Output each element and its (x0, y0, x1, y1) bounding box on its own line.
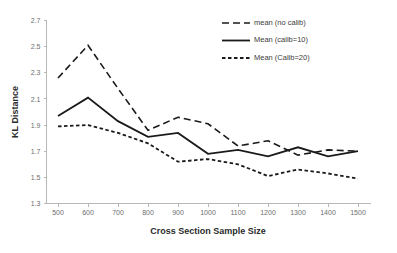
y-tick-label: 2.3 (31, 69, 41, 76)
series-line-1 (58, 45, 358, 155)
x-tick-label: 1100 (230, 209, 245, 216)
x-tick-label: 1000 (200, 209, 216, 216)
y-axis-title: KL Distance (10, 86, 20, 138)
legend-label-3: Mean (Calib=20) (254, 53, 310, 62)
y-tick-label: 2.5 (31, 43, 41, 50)
legend-label-1: mean (no calib) (254, 18, 306, 27)
x-axis-title: Cross Section Sample Size (150, 226, 266, 236)
x-tick-label: 1300 (290, 209, 306, 216)
series-line-2 (58, 98, 358, 157)
legend-label-2: Mean (calib=10) (254, 35, 308, 44)
x-tick-label: 1200 (260, 209, 276, 216)
x-tick-label: 900 (172, 209, 184, 216)
x-tick-label: 600 (82, 209, 94, 216)
chart-canvas: 1.31.51.71.92.12.32.52.7 500600700800900… (0, 0, 397, 253)
y-tick-label: 1.5 (31, 174, 41, 181)
x-tick-label: 1500 (350, 209, 366, 216)
y-axis-ticks: 1.31.51.71.92.12.32.52.7 (31, 17, 47, 207)
x-tick-label: 800 (142, 209, 154, 216)
x-tick-label: 1400 (320, 209, 336, 216)
y-tick-label: 1.3 (31, 200, 41, 207)
y-tick-label: 1.9 (31, 122, 41, 129)
plot-axes (47, 21, 372, 204)
chart-legend: mean (no calib)Mean (calib=10)Mean (Cali… (222, 18, 310, 62)
y-tick-label: 1.7 (31, 148, 41, 155)
x-tick-label: 500 (52, 209, 64, 216)
kl-distance-line-chart: 1.31.51.71.92.12.32.52.7 500600700800900… (0, 0, 397, 253)
y-tick-label: 2.1 (31, 96, 41, 103)
data-series-group (58, 45, 358, 178)
x-axis-ticks: 500600700800900100011001200130014001500 (52, 204, 366, 217)
y-tick-label: 2.7 (31, 17, 41, 24)
x-tick-label: 700 (112, 209, 124, 216)
